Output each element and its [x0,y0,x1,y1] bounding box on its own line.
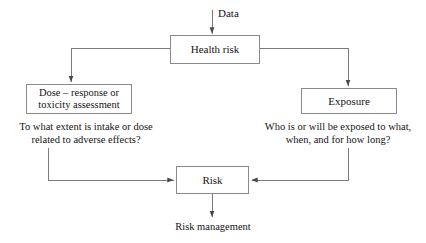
node-exposure: Exposure [301,88,397,114]
node-dose-response: Dose – response or toxicity assessment [26,84,132,114]
edge-label-data: Data [218,7,239,19]
caption-dose-response: To what extent is intake or dose related… [8,121,164,147]
node-risk: Risk [176,166,249,194]
edge-dose-to-risk [48,148,174,180]
node-risk-label: Risk [199,174,225,187]
node-health-risk: Health risk [170,35,260,64]
risk-assessment-flowchart: Health risk Dose – response or toxicity … [0,0,426,243]
caption-exposure: Who is or will be exposed to what, when,… [258,121,418,147]
node-dose-response-label: Dose – response or toxicity assessment [35,87,122,112]
edge-health-risk-to-dose [71,49,170,83]
node-exposure-label: Exposure [325,95,373,108]
edge-label-risk-management: Risk management [173,221,253,232]
node-health-risk-label: Health risk [188,43,243,56]
edge-health-risk-to-exposure [260,49,348,87]
edge-exposure-to-risk [252,148,349,180]
